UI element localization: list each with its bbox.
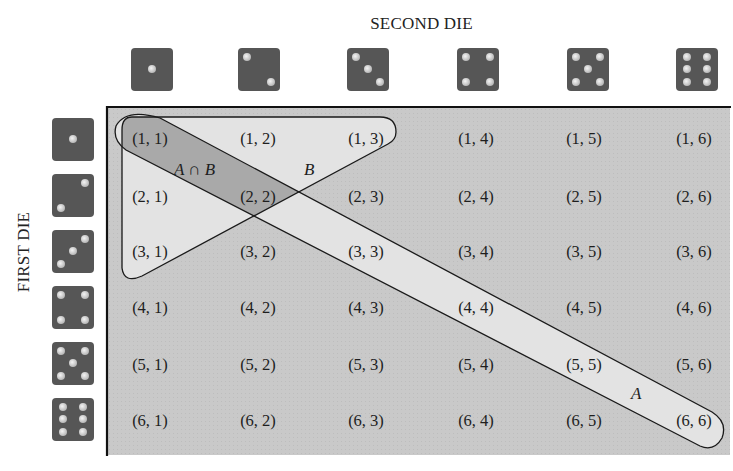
pip-icon xyxy=(364,65,372,73)
pip-icon xyxy=(703,53,711,61)
outcome-cell: (4, 4) xyxy=(431,298,521,318)
pip-icon xyxy=(81,347,89,355)
outcome-cell: (6, 4) xyxy=(431,411,521,431)
outcome-cell: (5, 2) xyxy=(213,355,303,375)
second-die-face-2 xyxy=(238,48,280,91)
outcome-cell: (1, 6) xyxy=(649,129,733,149)
outcome-cell: (6, 2) xyxy=(213,411,303,431)
pip-icon xyxy=(596,78,604,86)
outcome-cell: (6, 6) xyxy=(649,411,733,431)
outcome-cell: (1, 2) xyxy=(213,129,303,149)
pip-icon xyxy=(703,65,711,73)
outcome-cell: (3, 2) xyxy=(213,242,303,262)
pip-icon xyxy=(59,403,67,411)
outcome-cell: (3, 1) xyxy=(105,242,195,262)
first-die-face-5 xyxy=(52,342,94,385)
pip-icon xyxy=(243,53,251,61)
pip-icon xyxy=(69,135,77,143)
pip-icon xyxy=(57,291,65,299)
outcome-cell: (4, 3) xyxy=(321,298,411,318)
pip-icon xyxy=(79,415,87,423)
pip-icon xyxy=(57,316,65,324)
outcome-cell: (1, 4) xyxy=(431,129,521,149)
pip-icon xyxy=(57,347,65,355)
second-die-face-3 xyxy=(347,48,389,91)
outcome-cell: (5, 6) xyxy=(649,355,733,375)
pip-icon xyxy=(267,78,275,86)
outcome-cell: (2, 1) xyxy=(105,187,195,207)
outcome-cell: (4, 6) xyxy=(649,298,733,318)
pip-icon xyxy=(57,372,65,380)
outcome-cell: (5, 5) xyxy=(539,355,629,375)
second-die-face-5 xyxy=(567,48,609,91)
pip-icon xyxy=(81,179,89,187)
outcome-cell: (3, 6) xyxy=(649,242,733,262)
outcome-cell: (3, 5) xyxy=(539,242,629,262)
first-die-face-3 xyxy=(52,230,94,273)
outcome-cell: (5, 4) xyxy=(431,355,521,375)
pip-icon xyxy=(584,65,592,73)
pip-icon xyxy=(79,403,87,411)
pip-icon xyxy=(683,53,691,61)
first-die-face-6 xyxy=(52,398,94,441)
pip-icon xyxy=(57,204,65,212)
pip-icon xyxy=(462,53,470,61)
pip-icon xyxy=(57,260,65,268)
pip-icon xyxy=(376,78,384,86)
outcome-cell: (6, 5) xyxy=(539,411,629,431)
first-die-face-4 xyxy=(52,286,94,329)
outcome-cell: (2, 5) xyxy=(539,187,629,207)
pip-icon xyxy=(596,53,604,61)
pip-icon xyxy=(462,78,470,86)
second-die-face-6 xyxy=(676,48,718,91)
outcome-cell: (3, 3) xyxy=(321,242,411,262)
outcome-cell: (2, 4) xyxy=(431,187,521,207)
pip-icon xyxy=(81,291,89,299)
pip-icon xyxy=(352,53,360,61)
pip-icon xyxy=(81,235,89,243)
pip-icon xyxy=(81,316,89,324)
pip-icon xyxy=(59,428,67,436)
pip-icon xyxy=(683,65,691,73)
outcome-cell: (6, 3) xyxy=(321,411,411,431)
set-b-label: B xyxy=(304,160,314,180)
outcome-cell: (3, 4) xyxy=(431,242,521,262)
outcome-cell: (6, 1) xyxy=(105,411,195,431)
pip-icon xyxy=(148,65,156,73)
first-die-face-2 xyxy=(52,174,94,217)
outcome-cell: (4, 5) xyxy=(539,298,629,318)
pip-icon xyxy=(486,78,494,86)
outcome-cell: (2, 6) xyxy=(649,187,733,207)
intersection-label: A ∩ B xyxy=(174,160,215,180)
outcome-cell: (2, 2) xyxy=(213,187,303,207)
outcome-cell: (2, 3) xyxy=(321,187,411,207)
pip-icon xyxy=(59,415,67,423)
outcome-cell: (1, 5) xyxy=(539,129,629,149)
outcome-cell: (1, 1) xyxy=(105,129,195,149)
outcome-cell: (4, 1) xyxy=(105,298,195,318)
pip-icon xyxy=(69,247,77,255)
pip-icon xyxy=(572,78,580,86)
second-die-face-4 xyxy=(457,48,499,91)
set-a-label: A xyxy=(631,384,641,404)
pip-icon xyxy=(486,53,494,61)
pip-icon xyxy=(69,359,77,367)
pip-icon xyxy=(703,78,711,86)
pip-icon xyxy=(683,78,691,86)
second-die-face-1 xyxy=(131,48,173,91)
outcome-cell: (5, 1) xyxy=(105,355,195,375)
outcome-cell: (5, 3) xyxy=(321,355,411,375)
pip-icon xyxy=(572,53,580,61)
outcome-cell: (4, 2) xyxy=(213,298,303,318)
pip-icon xyxy=(79,428,87,436)
pip-icon xyxy=(81,372,89,380)
first-die-face-1 xyxy=(52,118,94,161)
outcome-cell: (1, 3) xyxy=(321,129,411,149)
